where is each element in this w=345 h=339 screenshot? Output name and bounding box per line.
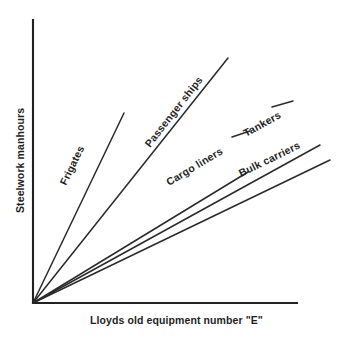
series-line-cargo-liners [33,172,248,303]
tankers-tick-accent [272,101,293,107]
series-line-bulk-carriers [33,160,330,303]
series-label-cargo-liners: Cargo liners [164,145,225,188]
chart-figure: Frigates Passenger ships Cargo liners Ta… [0,0,345,339]
x-axis-title: Lloyds old equipment number "E" [90,314,263,326]
series-label-passenger-ships: Passenger ships [142,74,205,150]
y-axis-title: Steelwork manhours [14,108,26,213]
chart-canvas: Frigates Passenger ships Cargo liners Ta… [0,0,345,339]
series-label-frigates: Frigates [57,143,86,186]
series-label-tankers: Tankers [241,108,283,138]
